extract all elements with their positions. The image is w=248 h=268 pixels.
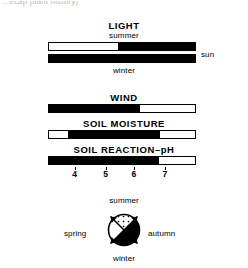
- wind-bar-fill: [49, 105, 140, 112]
- soil-moisture-heading: SOIL MOISTURE: [0, 118, 248, 129]
- season-label-spring: spring: [64, 229, 86, 238]
- wind-section: WIND low high: [0, 92, 248, 116]
- soil-reaction-section: SOIL REACTION–pH acidic neutral 4567: [0, 144, 248, 184]
- soil-moisture-bar: wet dry: [48, 130, 196, 139]
- page-top-text-fragment: ...ecap plant history): [2, 0, 98, 7]
- soil-reaction-bar-fill: [49, 157, 159, 164]
- season-circle-diagram: [96, 204, 152, 256]
- light-winter-caption: winter: [0, 66, 248, 75]
- ph-tick-label: 6: [131, 169, 136, 179]
- light-summer-bar-fill: [118, 43, 195, 50]
- light-summer-caption: summer: [0, 31, 248, 40]
- soil-reaction-heading: SOIL REACTION–pH: [0, 144, 248, 155]
- light-winter-bar: [48, 54, 196, 63]
- wind-bar: low high: [48, 104, 196, 113]
- season-label-autumn: autumn: [148, 229, 175, 238]
- ph-tick-label: 7: [163, 169, 168, 179]
- light-section: LIGHT summer shade sun winter: [0, 20, 248, 82]
- light-heading: LIGHT: [0, 20, 248, 31]
- season-circle-section: summer spring autumn winter: [0, 196, 248, 268]
- ph-axis: 4567: [48, 167, 196, 179]
- soil-moisture-section: SOIL MOISTURE wet dry: [0, 118, 248, 142]
- wind-heading: WIND: [0, 92, 248, 103]
- light-right-label: sun: [201, 50, 214, 59]
- soil-reaction-bar: acidic neutral: [48, 156, 196, 165]
- soil-moisture-bar-fill: [68, 131, 160, 138]
- light-summer-bar: shade: [48, 42, 196, 51]
- light-winter-bar-fill: [49, 55, 195, 62]
- ph-tick-label: 5: [103, 169, 108, 179]
- ph-tick-label: 4: [72, 169, 77, 179]
